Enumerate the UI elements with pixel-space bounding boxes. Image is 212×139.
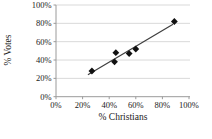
data-point bbox=[132, 46, 139, 53]
x-tick-label: 60% bbox=[128, 100, 144, 110]
data-point bbox=[171, 18, 178, 25]
scatter-chart: 0%20%40%60%80%100%0%20%40%60%80%100% % V… bbox=[0, 0, 212, 139]
data-point bbox=[112, 49, 119, 56]
data-point bbox=[111, 58, 118, 65]
y-tick-label: 40% bbox=[36, 55, 52, 65]
x-axis-title: % Christians bbox=[56, 112, 190, 126]
y-axis-title: % Votes bbox=[3, 20, 15, 80]
y-tick-label: 100% bbox=[32, 0, 52, 10]
x-tick-label: 100% bbox=[179, 100, 199, 110]
x-tick-label: 0% bbox=[50, 100, 61, 110]
x-tick-label: 40% bbox=[101, 100, 117, 110]
x-tick-label: 20% bbox=[75, 100, 91, 110]
x-tick-label: 80% bbox=[155, 100, 171, 110]
y-tick-label: 80% bbox=[36, 18, 52, 28]
trendline bbox=[88, 24, 173, 74]
y-tick-label: 20% bbox=[36, 73, 52, 83]
y-tick-label: 60% bbox=[36, 37, 52, 47]
